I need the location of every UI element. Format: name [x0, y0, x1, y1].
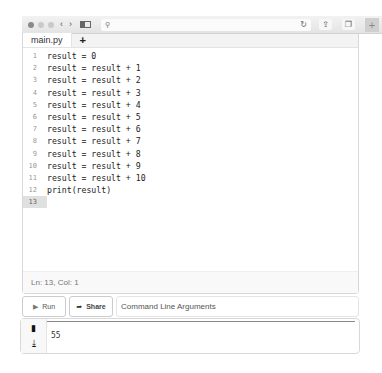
line-code: result = result + 1: [47, 63, 141, 73]
line-number: 4: [23, 89, 47, 97]
share-arrow-icon: ➦: [76, 303, 82, 311]
line-code: print(result): [47, 185, 111, 195]
add-file-button[interactable]: +: [72, 33, 94, 47]
run-label: Run: [42, 303, 55, 310]
line-code: result = result + 9: [47, 161, 141, 171]
code-line: 10result = result + 9: [23, 160, 358, 172]
command-line-arguments-input[interactable]: Command Line Arguments: [116, 296, 359, 317]
copy-icon[interactable]: ▮: [31, 323, 36, 333]
window-controls: [28, 22, 54, 28]
line-code: result = result + 5: [47, 112, 141, 122]
line-code: result = result + 4: [47, 100, 141, 110]
cursor-position-status: Ln: 13, Col: 1: [23, 271, 358, 293]
run-controls: ▶ Run ➦ Share Command Line Arguments: [22, 296, 359, 317]
line-number: 2: [23, 64, 47, 72]
line-number: 10: [23, 162, 47, 170]
line-code: result = 0: [47, 51, 96, 61]
back-icon[interactable]: ‹: [60, 20, 63, 29]
editor-panel: main.py + 1result = 0 2result = result +…: [22, 34, 359, 294]
line-number: 7: [23, 125, 47, 133]
line-code: result = result + 3: [47, 88, 141, 98]
search-icon: ⚲: [105, 21, 110, 29]
minimize-window-button[interactable]: [38, 22, 44, 28]
close-window-button[interactable]: [28, 22, 34, 28]
code-line: 1result = 0: [23, 50, 358, 62]
maximize-window-button[interactable]: [48, 22, 54, 28]
forward-icon[interactable]: ›: [69, 20, 72, 29]
reload-icon[interactable]: ↻: [300, 19, 307, 31]
line-number: 6: [23, 113, 47, 121]
code-line: 11result = result + 10: [23, 172, 358, 184]
share-button[interactable]: ➦ Share: [69, 296, 113, 317]
line-number: 3: [23, 76, 47, 84]
line-number: 12: [23, 186, 47, 194]
line-code: result = result + 10: [47, 173, 146, 183]
browser-toolbar: ‹ › ⚲ ↻ ⇪ ❐ +: [22, 16, 382, 34]
address-bar[interactable]: ⚲ ↻: [101, 19, 311, 31]
code-line: 8result = result + 7: [23, 135, 358, 147]
play-icon: ▶: [33, 303, 38, 311]
code-line: 2result = result + 1: [23, 62, 358, 74]
tab-main-py[interactable]: main.py: [23, 33, 72, 47]
code-line-active: 13: [23, 196, 358, 208]
output-panel: ▮ ⤓ 55: [20, 318, 360, 354]
line-code: result = result + 7: [47, 136, 141, 146]
line-code: result = result + 2: [47, 75, 141, 85]
code-line: 12print(result): [23, 184, 358, 196]
sidebar-toggle-icon[interactable]: [80, 21, 91, 28]
share-icon[interactable]: ⇪: [319, 19, 332, 30]
line-code: result = result + 6: [47, 124, 141, 134]
output-actions: ▮ ⤓: [21, 319, 47, 353]
run-button[interactable]: ▶ Run: [22, 296, 66, 317]
tabs-overview-icon[interactable]: ❐: [342, 19, 355, 30]
line-code: result = result + 8: [47, 149, 141, 159]
output-console: 55: [47, 319, 359, 353]
line-number: 9: [23, 150, 47, 158]
code-editor[interactable]: 1result = 0 2result = result + 1 3result…: [23, 50, 358, 208]
code-line: 3result = result + 2: [23, 74, 358, 86]
output-text: 55: [51, 331, 61, 340]
line-number: 5: [23, 101, 47, 109]
code-line: 6result = result + 5: [23, 111, 358, 123]
line-number: 13: [23, 196, 47, 208]
line-number: 1: [23, 52, 47, 60]
code-line: 9result = result + 8: [23, 148, 358, 160]
code-line: 5result = result + 4: [23, 99, 358, 111]
line-number: 11: [23, 174, 47, 182]
new-tab-button[interactable]: +: [365, 18, 379, 32]
code-line: 4result = result + 3: [23, 87, 358, 99]
share-label: Share: [86, 303, 105, 310]
file-tab-bar: main.py +: [23, 34, 358, 48]
code-line: 7result = result + 6: [23, 123, 358, 135]
download-icon[interactable]: ⤓: [32, 338, 36, 349]
line-number: 8: [23, 137, 47, 145]
